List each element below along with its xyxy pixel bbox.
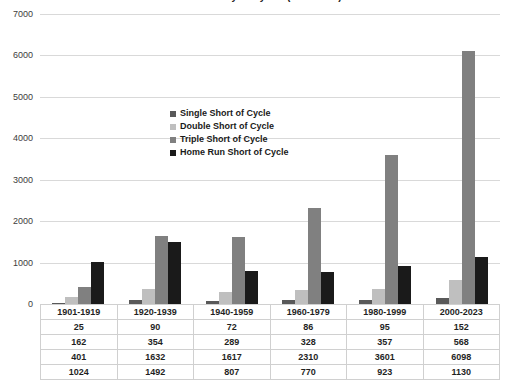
chart-legend: Single Short of CycleDouble Short of Cyc… [170, 107, 289, 159]
legend-label: Home Run Short of Cycle [180, 148, 289, 157]
table-row: 102414928077709231130 [41, 365, 500, 380]
table-cell: 1901-1919 [41, 305, 118, 320]
legend-swatch-icon [170, 124, 176, 130]
table-cell: 770 [270, 365, 347, 380]
table-row: 40116321617231036016098 [41, 350, 500, 365]
table-cell: 354 [117, 335, 194, 350]
bar [462, 51, 475, 304]
bar [78, 287, 91, 304]
table-cell: 1130 [423, 365, 500, 380]
table-cell: 923 [347, 365, 424, 380]
legend-swatch-icon [170, 111, 176, 117]
y-axis-tick-label: 3000 [0, 175, 33, 185]
y-axis-tick-label: 6000 [0, 50, 33, 60]
legend-label: Triple Short of Cycle [180, 135, 268, 144]
table-cell: 162 [41, 335, 118, 350]
table-cell: 2000-2023 [423, 305, 500, 320]
table-header-row: 1901-19191920-19391940-19591960-19791980… [41, 305, 500, 320]
legend-swatch-icon [170, 137, 176, 143]
table-cell: 95 [347, 320, 424, 335]
legend-label: Single Short of Cycle [180, 109, 271, 118]
legend-item: Home Run Short of Cycle [170, 146, 289, 159]
table-cell: 72 [194, 320, 271, 335]
bar [321, 272, 334, 304]
y-axis-tick-label: 1000 [0, 258, 33, 268]
table-cell: 1980-1999 [347, 305, 424, 320]
plot-area [40, 14, 500, 304]
y-axis-tick-label: 2000 [0, 216, 33, 226]
table-cell: 1632 [117, 350, 194, 365]
bar [308, 208, 321, 304]
table-cell: 807 [194, 365, 271, 380]
table-cell: 1617 [194, 350, 271, 365]
table-cell: 2310 [270, 350, 347, 365]
table-cell: 3601 [347, 350, 424, 365]
bar [91, 262, 104, 304]
bar-group [117, 14, 194, 304]
bar-group [347, 14, 424, 304]
legend-item: Single Short of Cycle [170, 107, 289, 120]
table-cell: 1024 [41, 365, 118, 380]
bar [449, 280, 462, 304]
table-cell: 90 [117, 320, 194, 335]
bar [65, 297, 78, 304]
bar [295, 290, 308, 304]
bar-group [423, 14, 500, 304]
table-cell: 1960-1979 [270, 305, 347, 320]
y-axis-tick-label: 7000 [0, 9, 33, 19]
table-row: 162354289328357568 [41, 335, 500, 350]
bar [398, 266, 411, 304]
bar [245, 271, 258, 304]
table-cell: 568 [423, 335, 500, 350]
y-axis-tick-label: 4000 [0, 133, 33, 143]
legend-label: Double Short of Cycle [180, 122, 274, 131]
table-cell: 289 [194, 335, 271, 350]
table-row: 2590728695152 [41, 320, 500, 335]
bar [232, 237, 245, 304]
bar [385, 155, 398, 304]
table-cell: 401 [41, 350, 118, 365]
table-cell: 1940-1959 [194, 305, 271, 320]
bar [168, 242, 181, 304]
table-cell: 6098 [423, 350, 500, 365]
bar-group [270, 14, 347, 304]
chart-container: Short of the Cycle by Era (1901-2023) 01… [0, 0, 507, 387]
legend-item: Double Short of Cycle [170, 120, 289, 133]
bar-group [193, 14, 270, 304]
table-cell: 328 [270, 335, 347, 350]
table-cell: 152 [423, 320, 500, 335]
bar [372, 289, 385, 304]
legend-item: Triple Short of Cycle [170, 133, 289, 146]
y-axis-tick-label: 5000 [0, 92, 33, 102]
bar-group [40, 14, 117, 304]
chart-title: Short of the Cycle by Era (1901-2023) [0, 0, 507, 2]
table-cell: 1492 [117, 365, 194, 380]
bar [475, 257, 488, 304]
bar [155, 236, 168, 304]
legend-swatch-icon [170, 150, 176, 156]
table-cell: 1920-1939 [117, 305, 194, 320]
table-cell: 25 [41, 320, 118, 335]
y-axis-tick-label: 0 [0, 299, 33, 309]
table-cell: 357 [347, 335, 424, 350]
table-cell: 86 [270, 320, 347, 335]
data-table: 1901-19191920-19391940-19591960-19791980… [40, 304, 500, 380]
bar [142, 289, 155, 304]
bar [219, 292, 232, 304]
